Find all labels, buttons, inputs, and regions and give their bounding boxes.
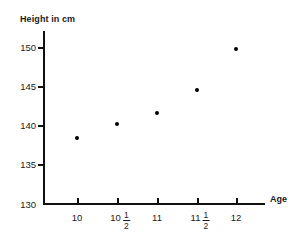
data-point [115, 122, 119, 126]
x-tick-label-12-whole: 12 [231, 212, 242, 223]
x-tick-label-10-half-whole: 10 [110, 212, 121, 223]
fraction-denominator: 2 [123, 221, 130, 230]
x-tick-label-10-whole: 10 [72, 212, 83, 223]
y-tick-label-140: 140 [10, 120, 36, 131]
data-point [75, 136, 79, 140]
fraction-denominator: 2 [203, 221, 210, 230]
x-tick-label-10: 10 [72, 212, 83, 223]
fraction-one-half: 1 2 [123, 211, 130, 230]
y-tick-label-135: 135 [10, 159, 36, 170]
x-tick-label-10-half: 10 1 2 [110, 212, 130, 231]
y-tick-label-130: 130 [10, 199, 36, 210]
x-axis-title: Age [270, 194, 287, 204]
y-tick-mark-145 [38, 86, 43, 88]
y-axis-title: Height in cm [20, 14, 75, 24]
x-tick-mark-10 [77, 198, 79, 203]
x-tick-mark-11 [157, 198, 159, 203]
x-tick-mark-12 [236, 198, 238, 203]
y-axis-line [43, 31, 45, 205]
data-point [195, 88, 199, 92]
fraction-numerator: 1 [203, 211, 210, 220]
y-tick-mark-150 [38, 47, 43, 49]
x-tick-label-11-half-whole: 11 [191, 212, 201, 223]
y-tick-label-150: 150 [10, 42, 36, 53]
x-tick-mark-10-half [117, 198, 119, 203]
x-tick-label-11-half: 11 1 2 [191, 212, 210, 231]
data-point [155, 111, 159, 115]
scatter-chart: Height in cm 150 145 140 135 130 10 10 1… [0, 0, 297, 248]
data-point [234, 47, 238, 51]
fraction-numerator: 1 [123, 211, 130, 220]
fraction-one-half: 1 2 [202, 211, 209, 230]
y-tick-mark-140 [38, 125, 43, 127]
x-axis-line [43, 203, 265, 205]
x-tick-mark-11-half [197, 198, 199, 203]
y-tick-label-145: 145 [10, 81, 36, 92]
x-tick-label-12: 12 [231, 212, 242, 223]
x-tick-label-11: 11 [152, 212, 162, 223]
x-tick-label-11-whole: 11 [152, 212, 162, 223]
y-tick-mark-135 [38, 164, 43, 166]
